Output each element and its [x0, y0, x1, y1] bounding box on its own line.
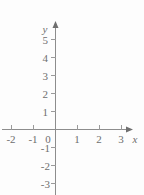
x-tick-label-neg2: -2	[6, 133, 15, 145]
x-tick-label-2: 2	[96, 133, 102, 145]
y-tick-label-neg2: -2	[41, 160, 50, 172]
x-tick-label-3: 3	[118, 133, 124, 145]
y-tick-label-5: 5	[43, 34, 49, 46]
x-tick-label-neg1: -1	[28, 133, 37, 145]
y-tick-label-1: 1	[43, 106, 49, 118]
x-axis-arrow-icon	[126, 127, 133, 133]
y-tick-label-4: 4	[43, 52, 49, 64]
coordinate-plane-svg: -2 -1 0 1 2 3 5 4 3 2 1 -1 -2 -3 y x	[0, 0, 144, 195]
x-axis-label: x	[132, 133, 138, 145]
y-tick-label-neg3: -3	[41, 178, 51, 190]
y-axis-arrow-icon	[53, 21, 59, 28]
x-tick-label-1: 1	[74, 133, 80, 145]
y-tick-label-2: 2	[43, 88, 49, 100]
coordinate-plane-figure: -2 -1 0 1 2 3 5 4 3 2 1 -1 -2 -3 y x	[0, 0, 144, 195]
y-tick-label-neg1: -1	[41, 142, 50, 154]
y-tick-label-3: 3	[43, 70, 49, 82]
y-axis-label: y	[42, 23, 48, 35]
